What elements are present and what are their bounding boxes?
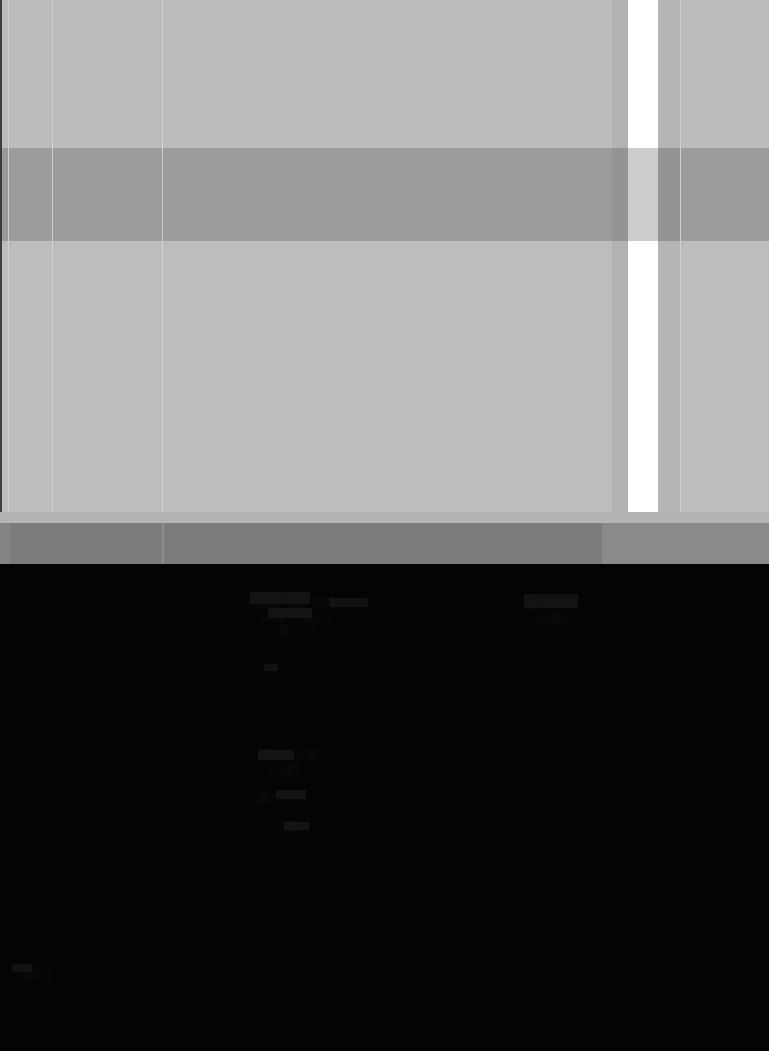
obscured-text-run: ░▒░░ ░░▒ — [258, 748, 317, 761]
obscured-text-run: ░▒░░ — [18, 968, 50, 981]
footer-segment-1 — [0, 523, 10, 564]
panel-divider-3 — [162, 0, 163, 512]
obscured-text-run: ░░▒░ ░▒░░ — [262, 610, 329, 623]
window-left-edge — [0, 0, 2, 512]
obscured-text-run: ░▒░░ ░░ — [252, 792, 303, 805]
screenshot-root: ░▒░░ ░▒░ ░░▒░░▒░ ░▒░░░▒░ ░░░▒░░ ░░░░▒░░▒… — [0, 0, 769, 1051]
footer-segment-2 — [162, 523, 164, 564]
scrollbar-track-right[interactable] — [658, 0, 680, 512]
scrollbar-track-left[interactable] — [612, 0, 628, 512]
scrollbar-thumb-shaded[interactable] — [628, 148, 658, 241]
lower-panel-text — [0, 564, 1, 565]
obscured-text-run: ░▒░ ░░ — [272, 624, 315, 637]
scrollbar-thumb[interactable] — [628, 0, 658, 520]
obscured-text-run: ░░▒░ — [536, 612, 568, 625]
lower-dark-panel — [0, 564, 769, 1051]
scrollbar-track-right-shaded[interactable] — [658, 148, 680, 241]
obscured-text-run: ░▒░░ ░▒░ ░░▒ — [248, 596, 334, 609]
scrollbar-track-left-shaded[interactable] — [612, 148, 628, 241]
panel-divider-2 — [52, 0, 53, 512]
panel-divider-1 — [8, 0, 9, 512]
footer-highlight-strip — [0, 512, 769, 523]
footer-bar-right-section — [602, 523, 769, 564]
obscured-text-run: ░░▒░ — [270, 762, 302, 775]
upper-content-panel — [0, 0, 769, 512]
panel-divider-4 — [680, 0, 681, 512]
obscured-text-run: ░▒░ — [280, 820, 304, 833]
artifact-blob — [330, 598, 368, 607]
artifact-blob — [264, 664, 278, 671]
obscured-text-run: ░▒░░ ░░ — [524, 598, 575, 611]
